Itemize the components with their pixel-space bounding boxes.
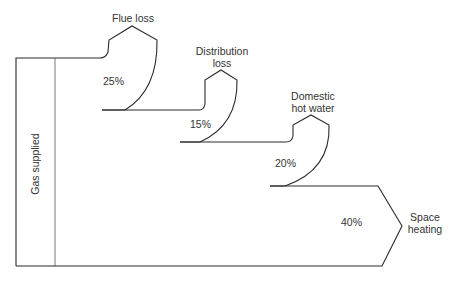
distribution-loss-percent: 15%: [190, 118, 211, 130]
space-heating-label-line2: heating: [402, 223, 448, 235]
hot-water-label: Domestic hot water: [283, 90, 343, 114]
flue-loss-label-line1: Flue loss: [112, 12, 154, 24]
space-heating-label-line1: Space: [402, 211, 448, 223]
flue-loss-percent: 25%: [103, 75, 124, 87]
hot-water-label-line2: hot water: [283, 102, 343, 114]
hot-water-label-line1: Domestic: [283, 90, 343, 102]
distribution-loss-label-line2: loss: [192, 57, 252, 69]
distribution-loss-label: Distribution loss: [192, 45, 252, 69]
space-heating-label: Space heating: [402, 211, 448, 235]
gas-supplied-label: Gas supplied: [29, 132, 41, 196]
flue-loss-label: Flue loss: [112, 12, 154, 24]
space-heating-percent: 40%: [341, 216, 362, 228]
sankey-diagram: [0, 0, 452, 282]
distribution-loss-label-line1: Distribution: [192, 45, 252, 57]
hot-water-percent: 20%: [275, 157, 296, 169]
